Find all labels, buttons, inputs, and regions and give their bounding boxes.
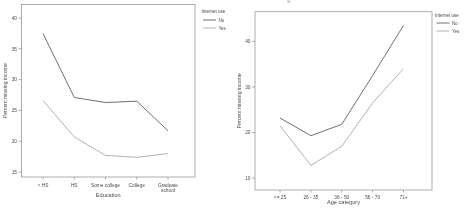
y-tick-label: 30 xyxy=(12,77,18,82)
y-axis-label: Percent missing income xyxy=(236,73,242,128)
x-tick-label: Some college xyxy=(91,183,120,188)
y-tick-label: 25 xyxy=(12,108,18,113)
chart-svg: 10203040<= 2526 - 3536 - 5056 - 7071+Age… xyxy=(232,0,464,211)
legend-item-label: No xyxy=(219,18,225,23)
age-category-chart: 10203040<= 2526 - 3536 - 5056 - 7071+Age… xyxy=(232,0,464,211)
y-tick-label: 35 xyxy=(12,47,18,52)
x-tick-label: 26 - 35 xyxy=(303,195,318,200)
plot-frame xyxy=(22,5,196,178)
y-axis-label: Percent missing income xyxy=(2,63,8,118)
chart-svg: 152025303540< HSHSSome collegeCollegeGra… xyxy=(0,0,232,211)
x-tick-label: Graduateschool xyxy=(158,183,178,194)
y-tick-label: 20 xyxy=(12,139,18,144)
legend-title: Internet use xyxy=(435,13,459,18)
education-chart: 152025303540< HSHSSome collegeCollegeGra… xyxy=(0,0,232,211)
legend-item-label: Yes xyxy=(219,26,227,31)
series-line-no xyxy=(43,34,168,131)
series-line-yes xyxy=(43,101,168,158)
y-tick-label: 30 xyxy=(245,85,251,90)
x-tick-label: 71+ xyxy=(399,195,407,200)
x-tick-label: <= 25 xyxy=(274,195,287,200)
x-tick-label: < HS xyxy=(38,183,49,188)
x-tick-label: College xyxy=(129,183,146,188)
y-tick-label: 20 xyxy=(245,130,251,135)
x-tick-label: HS xyxy=(71,183,78,188)
x-axis-label: Age category xyxy=(327,199,360,205)
y-tick-label: 40 xyxy=(245,39,251,44)
x-tick-label: 56 - 70 xyxy=(365,195,380,200)
y-tick-label: 10 xyxy=(245,176,251,181)
y-tick-label: 15 xyxy=(12,170,18,175)
plot-frame xyxy=(255,12,432,190)
series-line-yes xyxy=(280,69,404,166)
two-panel-line-figure: 152025303540< HSHSSome collegeCollegeGra… xyxy=(0,0,464,211)
x-axis-label: Education xyxy=(96,192,121,198)
series-line-no xyxy=(280,25,404,135)
legend-title: Internet use xyxy=(202,9,226,14)
cropped-text-artifact: g xyxy=(287,0,291,4)
y-tick-label: 40 xyxy=(12,16,18,21)
legend-item-label: No xyxy=(452,21,458,26)
legend-item-label: Yes xyxy=(452,29,460,34)
